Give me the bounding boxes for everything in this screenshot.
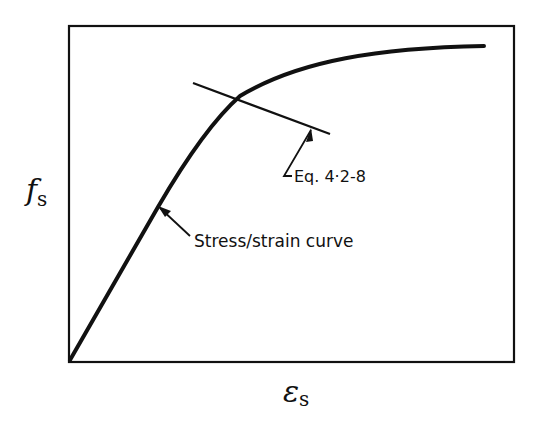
curve-label: Stress/strain curve	[194, 231, 353, 251]
curve-leader-arrow	[158, 206, 190, 236]
plot-frame	[69, 26, 514, 362]
y-axis-label: fs	[24, 172, 47, 211]
x-axis-label: εs	[283, 374, 309, 411]
stress-strain-diagram: Eq. 4·2-8 Stress/strain curve fs εs	[0, 0, 540, 426]
stress-strain-curve	[70, 46, 484, 360]
eq-label: Eq. 4·2-8	[294, 167, 366, 186]
